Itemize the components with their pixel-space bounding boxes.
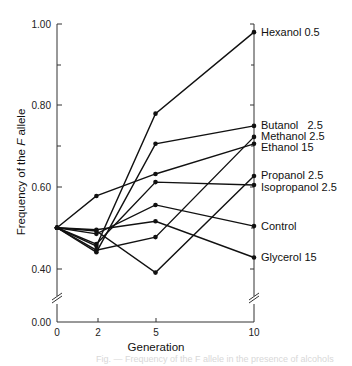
data-point xyxy=(94,232,99,237)
data-point xyxy=(94,227,99,232)
svg-text:0.80: 0.80 xyxy=(32,100,52,111)
series-line xyxy=(57,176,254,273)
data-point xyxy=(252,124,257,129)
data-point xyxy=(153,180,158,185)
data-point xyxy=(252,30,257,35)
series-labels: Hexanol 0.5 Butanol 2.5 Methanol 2.5 Eth… xyxy=(261,26,337,263)
data-point xyxy=(153,235,158,240)
svg-text:5: 5 xyxy=(153,327,159,338)
svg-text:10: 10 xyxy=(248,327,260,338)
data-point xyxy=(94,248,99,253)
data-point xyxy=(94,194,99,199)
label-glycerol: Glycerol 15 xyxy=(261,251,317,263)
label-hexanol: Hexanol 0.5 xyxy=(261,26,320,38)
data-point xyxy=(252,255,257,260)
x-axis-title: Generation xyxy=(128,341,185,353)
svg-text:0.40: 0.40 xyxy=(32,264,52,275)
svg-text:1.00: 1.00 xyxy=(32,19,52,30)
x-axis xyxy=(57,318,254,322)
right-axis xyxy=(249,24,259,322)
data-point xyxy=(153,219,158,224)
data-point xyxy=(153,270,158,275)
data-point xyxy=(153,172,158,177)
series-line xyxy=(57,182,254,244)
series-lines xyxy=(55,30,257,275)
data-point xyxy=(153,203,158,208)
data-point xyxy=(252,142,257,147)
y-axis-title: Frequency of the F allele xyxy=(15,109,27,236)
data-point xyxy=(153,142,158,147)
line-chart: 1.00 0.80 0.60 0.40 0.00 0 2 5 10 Genera… xyxy=(0,0,352,366)
data-point xyxy=(94,242,99,247)
svg-text:2: 2 xyxy=(95,327,101,338)
series-line xyxy=(57,137,254,250)
svg-text:0.00: 0.00 xyxy=(32,317,52,328)
data-point xyxy=(252,183,257,188)
label-ethanol: Ethanol 15 xyxy=(261,141,314,153)
data-point xyxy=(252,135,257,140)
figure-caption: Fig. — Frequency of the F allele in the … xyxy=(96,354,334,364)
data-point xyxy=(55,225,60,230)
svg-text:0: 0 xyxy=(54,327,60,338)
label-control: Control xyxy=(261,220,296,232)
y-tick-labels: 1.00 0.80 0.60 0.40 0.00 xyxy=(32,19,52,328)
x-tick-labels: 0 2 5 10 xyxy=(54,327,260,338)
data-point xyxy=(153,111,158,116)
label-isopropanol: Isopropanol 2.5 xyxy=(261,181,337,193)
svg-text:0.60: 0.60 xyxy=(32,182,52,193)
data-point xyxy=(252,224,257,229)
series-line xyxy=(57,144,254,228)
label-propanol: Propanol 2.5 xyxy=(261,169,323,181)
y-axis xyxy=(52,24,62,322)
data-point xyxy=(252,174,257,179)
series-line xyxy=(57,32,254,246)
